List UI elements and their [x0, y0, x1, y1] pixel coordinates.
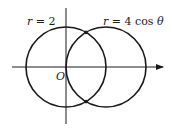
intersection-point-lower — [84, 100, 88, 104]
label-circle2-rest: = 4 cos — [108, 15, 157, 28]
intersection-point-upper — [84, 31, 88, 35]
label-circle2-theta: θ — [157, 15, 164, 28]
polar-diagram: r = 2 r = 4 cos θ O — [0, 0, 172, 132]
label-circle1: r = 2 — [27, 15, 55, 28]
label-circle2: r = 4 cos θ — [103, 15, 164, 28]
label-circle1-rest: = 2 — [32, 15, 55, 28]
origin-label: O — [56, 70, 65, 83]
